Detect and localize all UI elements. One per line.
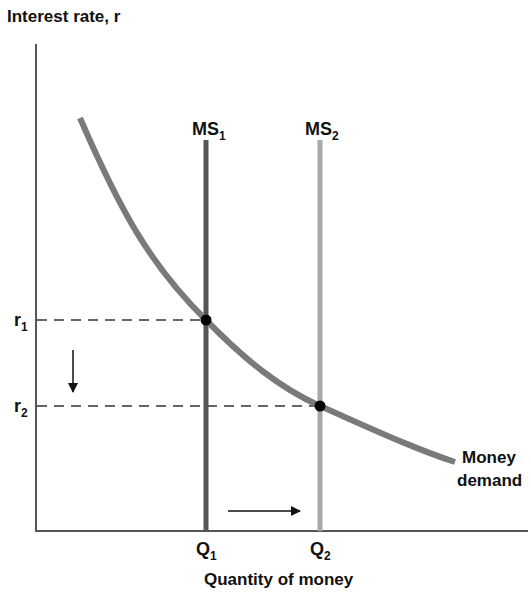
ms2-label: MS2 bbox=[305, 119, 339, 143]
equilibrium-point-1 bbox=[201, 315, 212, 326]
r1-label: r1 bbox=[14, 310, 28, 334]
ms1-label: MS1 bbox=[192, 119, 226, 143]
money-market-diagram: Interest rate, r MS1 MS2 r1 r2 Q1 Q2 Qua… bbox=[0, 0, 531, 600]
money-demand-label-line2: demand bbox=[457, 471, 522, 490]
money-demand-label-line1: Money bbox=[462, 448, 516, 467]
equilibrium-point-2 bbox=[315, 401, 326, 412]
x-axis-label: Quantity of money bbox=[204, 570, 354, 589]
q2-label: Q2 bbox=[310, 539, 331, 563]
q1-label: Q1 bbox=[196, 539, 217, 563]
money-demand-curve bbox=[80, 118, 455, 462]
r2-label: r2 bbox=[14, 396, 28, 420]
y-axis-label: Interest rate, r bbox=[7, 7, 121, 26]
